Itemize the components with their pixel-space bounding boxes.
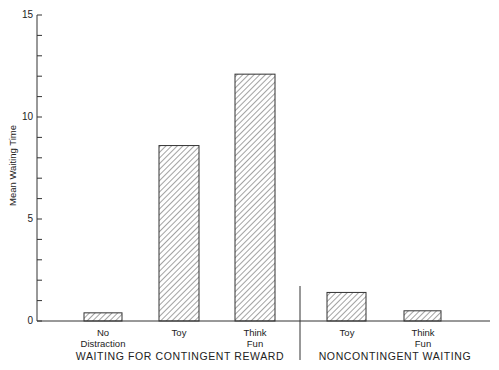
label-line: Think	[393, 327, 453, 338]
category-label-toy: Toy	[149, 327, 209, 338]
category-label-think-fun-noncontingent: Think Fun	[393, 327, 453, 349]
bars	[84, 74, 441, 321]
y-tick-label-10: 10	[13, 111, 33, 122]
bar-toy	[159, 146, 199, 321]
label-line: Fun	[393, 338, 453, 349]
y-ticks	[37, 15, 42, 321]
group-label-contingent: WAITING FOR CONTINGENT REWARD	[70, 350, 290, 362]
chart-canvas	[0, 0, 499, 370]
label-line: Toy	[317, 327, 377, 338]
label-line: Think	[225, 327, 285, 338]
y-tick-label-15: 15	[13, 9, 33, 20]
y-tick-label-0: 0	[13, 315, 33, 326]
category-label-think-fun: Think Fun	[225, 327, 285, 349]
bar-no-distraction	[84, 313, 122, 321]
bar-toy	[327, 292, 366, 321]
bar-think-fun	[404, 311, 441, 321]
bar-think-fun	[235, 74, 275, 321]
group-label-noncontingent: NONCONTINGENT WAITING	[315, 350, 475, 362]
label-line: Fun	[225, 338, 285, 349]
label-line: No	[73, 327, 133, 338]
category-label-toy-noncontingent: Toy	[317, 327, 377, 338]
label-line: Toy	[149, 327, 209, 338]
category-label-no-distraction: No Distraction	[73, 327, 133, 349]
y-tick-label-5: 5	[13, 213, 33, 224]
label-line: Distraction	[73, 338, 133, 349]
y-axis-label: Mean Waiting Time	[7, 116, 18, 216]
